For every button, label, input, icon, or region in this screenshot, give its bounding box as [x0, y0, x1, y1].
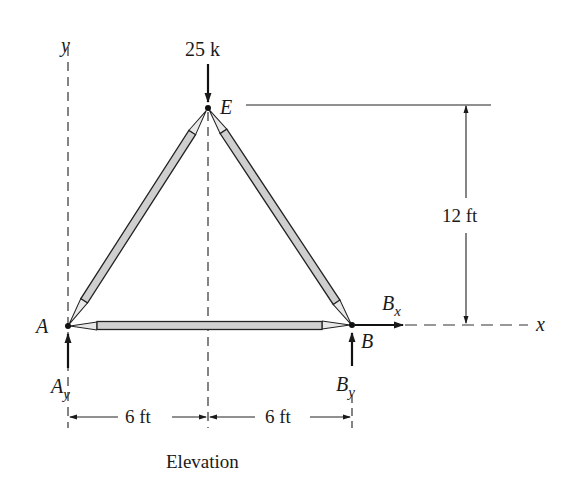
truss-diagram: y x A B E 25 k Ay By Bx 12 ft — [0, 0, 567, 503]
reaction-by-label: By — [336, 373, 355, 400]
member-ab — [70, 321, 350, 330]
x-axis-label: x — [535, 313, 545, 335]
joint-a — [65, 323, 71, 329]
height-dim-label: 12 ft — [442, 205, 478, 226]
member-ae — [66, 108, 210, 326]
joint-label-e: E — [219, 96, 232, 118]
joint-b — [349, 322, 355, 328]
joint-label-a: A — [34, 315, 49, 337]
member-eb — [206, 107, 355, 327]
left-span-label: 6 ft — [125, 406, 152, 427]
y-axis-label: y — [59, 34, 70, 57]
right-span-label: 6 ft — [265, 406, 292, 427]
load-label: 25 k — [185, 38, 220, 60]
joint-label-b: B — [361, 330, 373, 352]
reaction-ay-label: Ay — [49, 375, 70, 402]
joint-e — [205, 105, 211, 111]
figure-caption: Elevation — [166, 451, 239, 472]
reaction-bx-label: Bx — [382, 292, 401, 319]
